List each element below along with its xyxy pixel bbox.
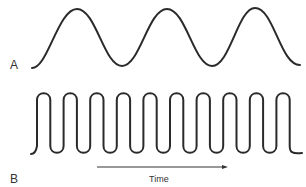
wave-b-line [31,93,302,154]
time-axis-label: Time [149,174,169,184]
panel-label-b: B [10,172,18,186]
wave-a-line [32,8,300,68]
panel-label-a: A [10,58,18,72]
waveform-canvas [0,0,306,187]
waveform-figure: A B Time [0,0,306,187]
time-arrow-head [222,165,228,169]
